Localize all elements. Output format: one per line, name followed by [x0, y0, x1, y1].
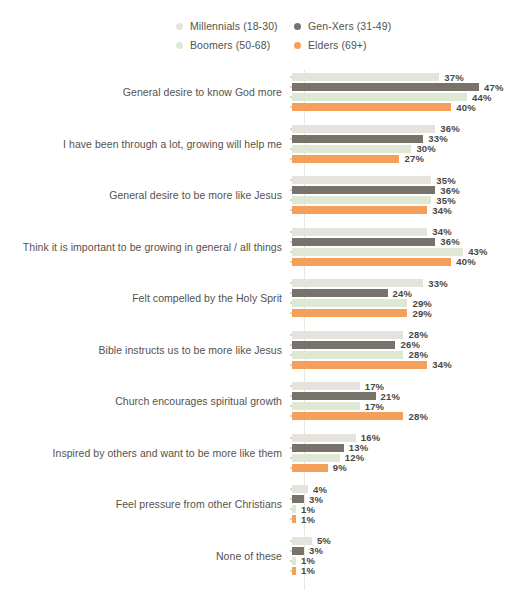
- bar[interactable]: [292, 73, 439, 81]
- bar[interactable]: [292, 454, 340, 462]
- bar[interactable]: [292, 567, 296, 575]
- bar-row[interactable]: 28%: [292, 331, 515, 339]
- legend-item[interactable]: Elders (69+): [294, 39, 411, 51]
- bar[interactable]: [292, 135, 423, 143]
- bar[interactable]: [292, 279, 423, 287]
- bar-row[interactable]: 9%: [292, 464, 515, 472]
- bar[interactable]: [292, 186, 435, 194]
- bar-row[interactable]: 5%: [292, 537, 515, 545]
- bar[interactable]: [292, 196, 431, 204]
- bar-row[interactable]: 44%: [292, 93, 515, 101]
- chart-plot-area: General desire to know God more37%47%44%…: [0, 70, 527, 603]
- bar-row[interactable]: 30%: [292, 145, 515, 153]
- bar[interactable]: [292, 351, 403, 359]
- bar-row[interactable]: 29%: [292, 299, 515, 307]
- bar[interactable]: [292, 228, 427, 236]
- bar-row[interactable]: 1%: [292, 515, 515, 523]
- bar-row[interactable]: 37%: [292, 73, 515, 81]
- bar-row[interactable]: 33%: [292, 135, 515, 143]
- bar[interactable]: [292, 258, 451, 266]
- bar[interactable]: [292, 145, 411, 153]
- bar-row[interactable]: 16%: [292, 434, 515, 442]
- bar-row[interactable]: 26%: [292, 341, 515, 349]
- bar[interactable]: [292, 361, 427, 369]
- bar[interactable]: [292, 248, 463, 256]
- axis-tick: [290, 76, 292, 78]
- bar[interactable]: [292, 434, 356, 442]
- legend-item[interactable]: Boomers (50-68): [176, 39, 294, 51]
- bar-value-label: 29%: [412, 308, 432, 319]
- bar[interactable]: [292, 412, 403, 420]
- axis-tick: [290, 405, 292, 407]
- bar-row[interactable]: 40%: [292, 103, 515, 111]
- bar-row[interactable]: 1%: [292, 557, 515, 565]
- bar-row[interactable]: 35%: [292, 196, 515, 204]
- bar[interactable]: [292, 444, 344, 452]
- bar[interactable]: [292, 557, 296, 565]
- bar[interactable]: [292, 331, 403, 339]
- bar-row[interactable]: 17%: [292, 402, 515, 410]
- bar-row[interactable]: 43%: [292, 248, 515, 256]
- bar[interactable]: [292, 547, 304, 555]
- bar[interactable]: [292, 341, 395, 349]
- bar[interactable]: [292, 382, 360, 390]
- bar-row[interactable]: 34%: [292, 361, 515, 369]
- bar-row[interactable]: 33%: [292, 279, 515, 287]
- bar[interactable]: [292, 392, 376, 400]
- bar-group-bars: 36%33%30%27%: [292, 122, 515, 166]
- bar[interactable]: [292, 505, 296, 513]
- axis-tick: [290, 344, 292, 346]
- bar[interactable]: [292, 289, 388, 297]
- bar-row[interactable]: 17%: [292, 382, 515, 390]
- bar[interactable]: [292, 464, 328, 472]
- bar-row[interactable]: 36%: [292, 238, 515, 246]
- bar-row[interactable]: 3%: [292, 547, 515, 555]
- bar-row[interactable]: 36%: [292, 125, 515, 133]
- bar-row[interactable]: 40%: [292, 258, 515, 266]
- bar[interactable]: [292, 485, 308, 493]
- bar[interactable]: [292, 176, 431, 184]
- legend-item[interactable]: Millennials (18-30): [176, 20, 294, 32]
- bar-row[interactable]: 34%: [292, 206, 515, 214]
- bar[interactable]: [292, 155, 399, 163]
- bar-row[interactable]: 36%: [292, 186, 515, 194]
- axis-tick: [290, 292, 292, 294]
- axis-tick: [290, 302, 292, 304]
- axis-tick: [290, 560, 292, 562]
- bar-row[interactable]: 21%: [292, 392, 515, 400]
- axis-tick: [290, 261, 292, 263]
- bar[interactable]: [292, 93, 467, 101]
- bar-row[interactable]: 24%: [292, 289, 515, 297]
- bar[interactable]: [292, 309, 407, 317]
- bar-group: General desire to know God more37%47%44%…: [0, 70, 527, 114]
- bar[interactable]: [292, 402, 360, 410]
- bar-group: Church encourages spiritual growth17%21%…: [0, 379, 527, 423]
- bar-row[interactable]: 47%: [292, 83, 515, 91]
- bar[interactable]: [292, 103, 451, 111]
- bar-row[interactable]: 1%: [292, 567, 515, 575]
- bar-row[interactable]: 27%: [292, 155, 515, 163]
- bar-value-label: 24%: [393, 288, 413, 299]
- bar[interactable]: [292, 495, 304, 503]
- legend-item[interactable]: Gen-Xers (31-49): [294, 20, 411, 32]
- axis-tick: [290, 209, 292, 211]
- bar[interactable]: [292, 299, 407, 307]
- bar[interactable]: [292, 125, 435, 133]
- bar-row[interactable]: 1%: [292, 505, 515, 513]
- bar-row[interactable]: 13%: [292, 444, 515, 452]
- bar[interactable]: [292, 515, 296, 523]
- axis-tick: [290, 437, 292, 439]
- bar-row[interactable]: 12%: [292, 454, 515, 462]
- bar-row[interactable]: 4%: [292, 485, 515, 493]
- bar-row[interactable]: 29%: [292, 309, 515, 317]
- bar[interactable]: [292, 206, 427, 214]
- bar-row[interactable]: 28%: [292, 351, 515, 359]
- bar-row[interactable]: 28%: [292, 412, 515, 420]
- bar[interactable]: [292, 238, 435, 246]
- bar[interactable]: [292, 83, 479, 91]
- bar[interactable]: [292, 537, 312, 545]
- bar-row[interactable]: 35%: [292, 176, 515, 184]
- bar-row[interactable]: 34%: [292, 228, 515, 236]
- axis-tick: [290, 395, 292, 397]
- bar-row[interactable]: 3%: [292, 495, 515, 503]
